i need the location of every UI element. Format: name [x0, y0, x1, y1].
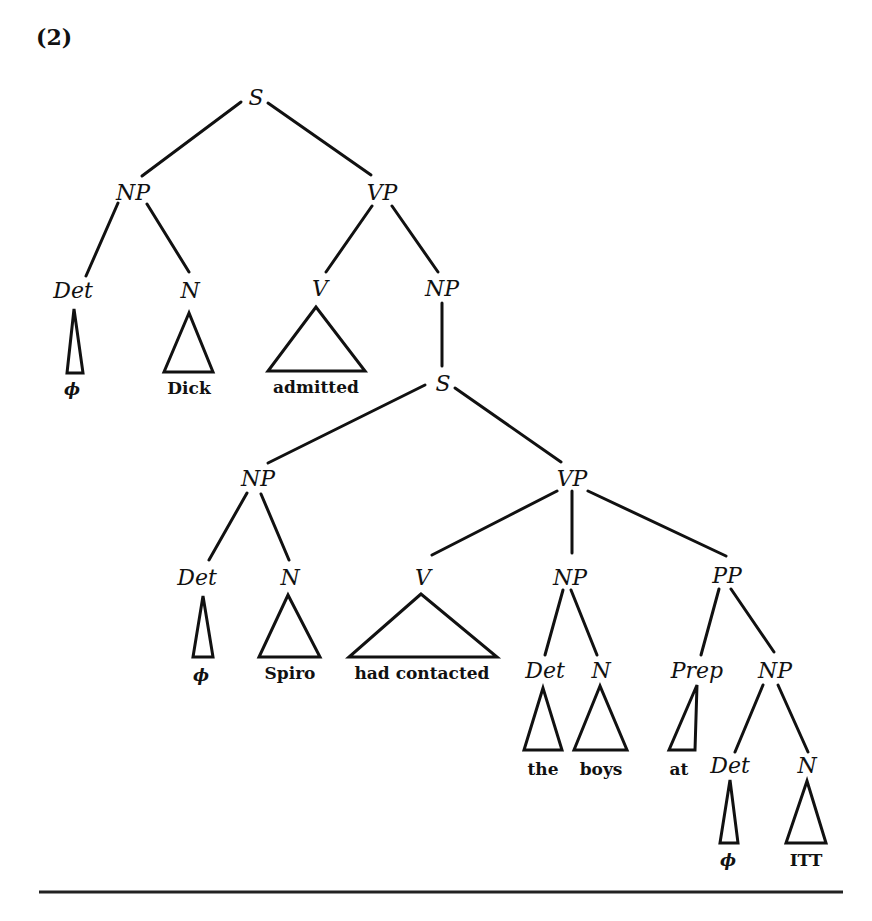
node-label-det: Det — [524, 658, 565, 683]
node-label-prep: Prep — [670, 658, 723, 683]
leaf-word: Spiro — [265, 663, 316, 683]
leaf-word: had contacted — [354, 663, 489, 683]
leaf-word: admitted — [273, 377, 359, 397]
node-label-v: V — [415, 565, 433, 590]
tree-edge — [588, 491, 726, 556]
node-label-n: N — [279, 565, 300, 590]
tree-edge — [326, 206, 372, 272]
node-label-np: NP — [115, 180, 151, 205]
node-label-v: V — [312, 276, 330, 301]
tree-edge — [86, 203, 118, 276]
tree-edge — [735, 685, 763, 752]
leaf-word: Dick — [167, 378, 212, 398]
tree-edge — [545, 590, 563, 655]
node-label-vp: VP — [367, 180, 399, 205]
tree-edge — [455, 388, 561, 462]
leaf-word: ϕ — [720, 850, 736, 870]
triangle-abbreviation — [259, 595, 320, 657]
tree-edge — [571, 590, 597, 655]
node-label-np: NP — [424, 276, 460, 301]
triangle-abbreviation — [720, 780, 738, 843]
node-label-np: NP — [552, 565, 588, 590]
leaf-word: boys — [580, 759, 623, 779]
triangle-abbreviation — [669, 685, 697, 750]
node-label-n: N — [796, 753, 817, 778]
node-label-det: Det — [709, 753, 750, 778]
tree-edge — [261, 494, 289, 560]
triangle-abbreviation — [349, 594, 497, 657]
triangle-abbreviation — [524, 688, 562, 750]
leaf-word: the — [527, 759, 558, 779]
leaf-word: ϕ — [64, 379, 80, 399]
triangle-abbreviation — [786, 781, 826, 843]
leaf-word: ϕ — [193, 665, 209, 685]
triangle-abbreviation — [574, 686, 627, 750]
node-label-vp: VP — [557, 466, 589, 491]
triangle-abbreviation — [193, 596, 213, 657]
tree-edge — [209, 493, 247, 560]
tree-edge — [268, 103, 371, 175]
leaf-word: at — [670, 759, 689, 779]
triangle-abbreviation — [67, 309, 83, 373]
triangle-abbreviation — [268, 307, 365, 371]
node-label-pp: PP — [711, 563, 743, 588]
tree-edge — [142, 102, 241, 176]
node-label-s: S — [248, 85, 263, 110]
node-label-n: N — [179, 278, 200, 303]
node-label-det: Det — [52, 278, 93, 303]
triangle-abbreviation — [164, 313, 213, 372]
node-label-det: Det — [176, 565, 217, 590]
tree-edge — [701, 589, 719, 655]
tree-edge — [778, 685, 808, 752]
tree-edge — [392, 206, 438, 272]
tree-edge — [432, 491, 557, 555]
node-label-s: S — [435, 371, 450, 396]
syntax-tree-diagram: SNPVPDetNVNPSNPVPDetNVNPPPDetNPrepNPDetN… — [0, 0, 872, 921]
tree-edge — [731, 589, 774, 652]
tree-edge — [147, 204, 189, 272]
node-label-np: NP — [757, 658, 793, 683]
leaf-word: ITT — [790, 850, 823, 870]
node-label-np: NP — [240, 466, 276, 491]
node-label-n: N — [590, 658, 611, 683]
